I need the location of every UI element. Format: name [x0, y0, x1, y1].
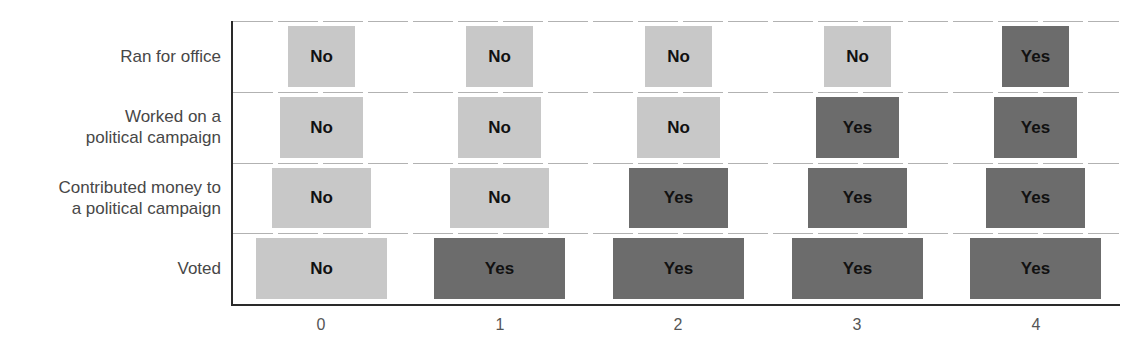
x-axis-line — [231, 304, 1120, 306]
gridline-row-separator — [233, 92, 1119, 93]
row-label-ran-for-office: Ran for office — [120, 46, 221, 67]
x-tick-label: 2 — [658, 316, 698, 334]
cell: Yes — [986, 168, 1085, 228]
cell: No — [466, 26, 533, 87]
cell: No — [637, 97, 720, 158]
cell: Yes — [1002, 26, 1069, 87]
cell: No — [824, 26, 891, 87]
cell: Yes — [808, 168, 907, 228]
cell: No — [645, 26, 712, 87]
gridline-row-separator — [233, 233, 1119, 234]
cell: Yes — [434, 238, 565, 299]
y-axis-line — [231, 21, 233, 306]
cell: Yes — [816, 97, 899, 158]
x-tick-label: 0 — [301, 316, 341, 334]
cell: Yes — [970, 238, 1101, 299]
cell: Yes — [792, 238, 923, 299]
x-tick-label: 4 — [1016, 316, 1056, 334]
row-label-worked-on-campaign: Worked on a political campaign — [86, 106, 221, 148]
cell: No — [272, 168, 371, 228]
cell: No — [450, 168, 549, 228]
gridline-top — [233, 21, 1119, 22]
cell: No — [256, 238, 387, 299]
cell: No — [288, 26, 355, 87]
gridline-row-separator — [233, 163, 1119, 164]
cell: Yes — [613, 238, 744, 299]
x-tick-label: 1 — [480, 316, 520, 334]
x-tick-label: 3 — [837, 316, 877, 334]
cell: No — [458, 97, 541, 158]
cell: No — [280, 97, 363, 158]
cell: Yes — [994, 97, 1077, 158]
row-label-contributed-money: Contributed money to a political campaig… — [58, 177, 221, 219]
row-label-voted: Voted — [178, 258, 222, 279]
cell: Yes — [629, 168, 728, 228]
